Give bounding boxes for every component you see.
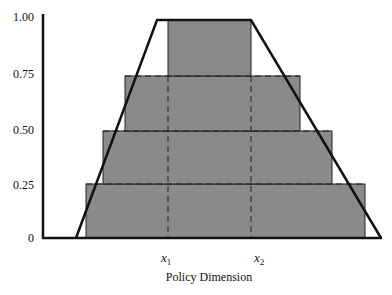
level-025-rect bbox=[86, 184, 365, 238]
y-tick-025: 0.25 bbox=[13, 178, 34, 192]
x1-label: x1 bbox=[160, 250, 171, 267]
y-tick-0: 0 bbox=[28, 231, 34, 245]
alpha-cut-rectangles bbox=[86, 20, 365, 238]
y-tick-100: 1.00 bbox=[13, 10, 34, 24]
x-axis-title: Policy Dimension bbox=[166, 270, 252, 284]
x2-label: x2 bbox=[253, 250, 264, 267]
level-075-rect bbox=[125, 76, 300, 131]
y-tick-050: 0.50 bbox=[13, 123, 34, 137]
level-100-rect bbox=[168, 20, 251, 76]
y-tick-075: 0.75 bbox=[13, 67, 34, 81]
membership-diagram: 1.00 0.75 0.50 0.25 0 x1 x2 Policy Dimen… bbox=[0, 0, 392, 295]
level-050-rect bbox=[103, 131, 332, 184]
